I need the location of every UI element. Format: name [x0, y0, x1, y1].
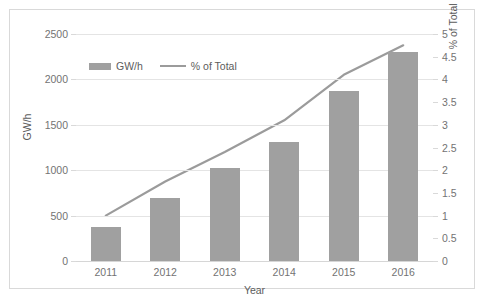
y-axis-tick-right — [433, 238, 438, 239]
y-axis-tick-right — [433, 170, 438, 171]
y-axis-title-right: % of Total electricity production — [447, 0, 459, 72]
gridline — [76, 125, 433, 126]
legend-line-swatch-icon — [160, 65, 186, 67]
y-axis-tick-label-right: 4 — [442, 73, 448, 85]
y-axis-tick-right — [433, 34, 438, 35]
chart-container: 0500100015002000250000.511.522.533.544.5… — [0, 0, 486, 307]
x-axis-title: Year — [76, 284, 433, 296]
y-axis-tick-right — [433, 57, 438, 58]
chart-frame: 0500100015002000250000.511.522.533.544.5… — [9, 9, 475, 289]
gridline — [76, 34, 433, 35]
bar-2011 — [91, 227, 121, 262]
legend-item-percent-of-total: % of Total — [160, 60, 237, 72]
gridline — [76, 216, 433, 217]
y-axis-tick-right — [433, 79, 438, 80]
y-axis-tick-left — [71, 79, 76, 80]
legend-item-gwh: GW/h — [89, 60, 143, 72]
bar-2014 — [269, 142, 299, 261]
x-axis-tick-label: 2012 — [154, 266, 177, 278]
bar-2012 — [150, 198, 180, 261]
y-axis-tick-label-left: 500 — [50, 210, 68, 222]
y-axis-tick-right — [433, 193, 438, 194]
x-axis-tick-label: 2011 — [94, 266, 117, 278]
y-axis-tick-right — [433, 216, 438, 217]
chart-legend: GW/h % of Total — [89, 60, 237, 72]
x-axis-tick-label: 2015 — [332, 266, 355, 278]
y-axis-tick-label-right: 2.5 — [442, 142, 457, 154]
y-axis-tick-left — [71, 125, 76, 126]
y-axis-tick-label-right: 1 — [442, 210, 448, 222]
bar-2015 — [329, 91, 359, 261]
legend-label-percent-of-total: % of Total — [191, 60, 237, 72]
y-axis-tick-left — [71, 261, 76, 262]
x-axis-tick-label: 2013 — [213, 266, 236, 278]
legend-label-gwh: GW/h — [116, 60, 143, 72]
x-axis-tick-label: 2016 — [392, 266, 415, 278]
y-axis-tick-right — [433, 102, 438, 103]
bar-2013 — [210, 168, 240, 261]
y-axis-tick-label-right: 0.5 — [442, 232, 457, 244]
y-axis-tick-left — [71, 216, 76, 217]
gridline — [76, 79, 433, 80]
gridline — [76, 170, 433, 171]
y-axis-tick-label-right: 1.5 — [442, 187, 457, 199]
y-axis-tick-label-right: 0 — [442, 255, 448, 267]
y-axis-tick-label-left: 2000 — [45, 73, 68, 85]
y-axis-tick-right — [433, 125, 438, 126]
y-axis-tick-label-left: 1500 — [45, 119, 68, 131]
y-axis-tick-right — [433, 148, 438, 149]
y-axis-tick-label-right: 3 — [442, 119, 448, 131]
bar-2016 — [388, 52, 418, 261]
y-axis-tick-left — [71, 170, 76, 171]
y-axis-tick-label-left: 1000 — [45, 164, 68, 176]
y-axis-tick-label-right: 2 — [442, 164, 448, 176]
y-axis-tick-right — [433, 261, 438, 262]
x-axis-baseline — [76, 261, 433, 262]
y-axis-tick-label-left: 0 — [62, 255, 68, 267]
y-axis-tick-label-right: 3.5 — [442, 96, 457, 108]
y-axis-title-left: GW/h — [21, 67, 33, 187]
x-axis-tick-label: 2014 — [273, 266, 296, 278]
legend-bar-swatch-icon — [89, 63, 111, 70]
y-axis-tick-left — [71, 34, 76, 35]
y-axis-tick-label-left: 2500 — [45, 28, 68, 40]
